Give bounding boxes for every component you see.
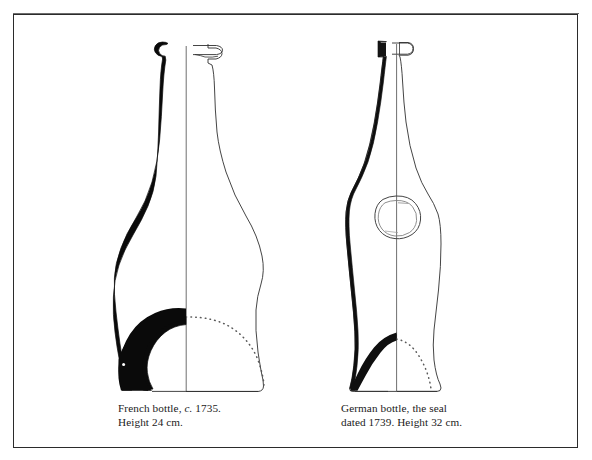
caption-french-text-before: French bottle, — [118, 402, 184, 414]
caption-french-line-2: Height 24 cm. — [118, 415, 221, 429]
plate-border-frame — [13, 14, 578, 448]
caption-french-bottle: French bottle, c. 1735. Height 24 cm. — [118, 401, 221, 430]
illustration-plate: French bottle, c. 1735. Height 24 cm. Ge… — [0, 0, 592, 460]
caption-german-line-2: dated 1739. Height 32 cm. — [341, 415, 462, 429]
caption-german-line-1: German bottle, the seal — [341, 401, 462, 415]
caption-german-bottle: German bottle, the seal dated 1739. Heig… — [341, 401, 462, 430]
caption-french-line-1: French bottle, c. 1735. — [118, 401, 221, 415]
caption-french-text-after: 1735. — [192, 402, 221, 414]
